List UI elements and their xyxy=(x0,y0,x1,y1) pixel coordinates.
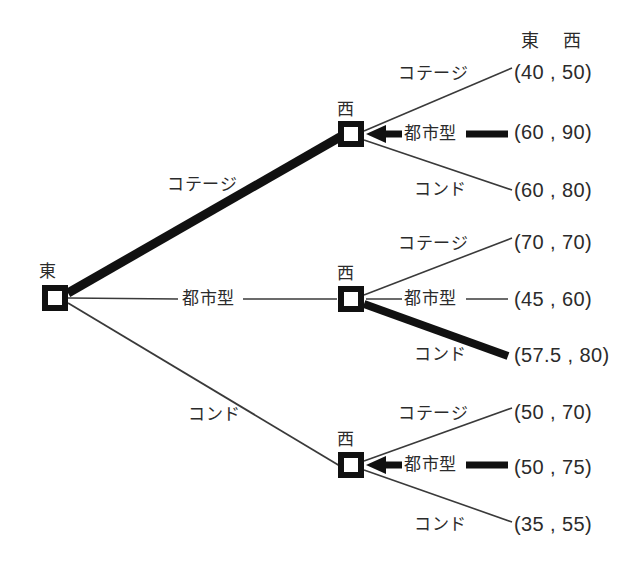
root-node-east[interactable] xyxy=(42,285,68,311)
edge-label-root-cottage: コテージ xyxy=(167,175,237,195)
node-3-label: 西 xyxy=(337,430,354,449)
payoff-n1-urban: (60 , 90) xyxy=(514,121,592,144)
edge-label-n3-condo: コンド xyxy=(414,515,467,535)
edge-label-n3-urban: 都市型 xyxy=(404,455,457,475)
payoff-n2-urban: (45 , 60) xyxy=(514,288,592,311)
decision-node-west-2[interactable] xyxy=(338,286,364,312)
edge-label-n1-urban: 都市型 xyxy=(404,124,457,144)
header-player-west: 西 xyxy=(563,31,581,52)
node-1-label: 西 xyxy=(337,100,354,119)
payoff-n1-cottage: (40 , 50) xyxy=(514,61,592,84)
payoff-n2-condo: (57.5 , 80) xyxy=(514,344,610,367)
edge-root-cottage xyxy=(68,137,340,293)
payoff-n3-urban: (50 , 75) xyxy=(514,456,592,479)
decision-node-west-1[interactable] xyxy=(338,121,364,147)
arrowhead-n1-urban xyxy=(366,125,386,143)
edge-label-root-condo: コンド xyxy=(188,405,241,425)
edge-label-n2-condo: コンド xyxy=(414,345,467,365)
node-2-label: 西 xyxy=(337,264,354,283)
edge-label-n2-cottage: コテージ xyxy=(398,234,468,254)
payoff-n3-cottage: (50 , 70) xyxy=(514,401,592,424)
header-player-east: 東 xyxy=(521,31,539,52)
root-node-label: 東 xyxy=(39,262,56,281)
edge-label-n1-condo: コンド xyxy=(414,180,467,200)
decision-node-west-3[interactable] xyxy=(338,452,364,478)
payoff-n2-cottage: (70 , 70) xyxy=(514,231,592,254)
payoff-n3-condo: (35 , 55) xyxy=(514,513,592,536)
edge-root-urban xyxy=(68,298,178,299)
payoff-n1-condo: (60 , 80) xyxy=(514,179,592,202)
edge-label-root-urban: 都市型 xyxy=(182,289,235,309)
edge-label-n2-urban: 都市型 xyxy=(404,289,457,309)
edge-label-n1-cottage: コテージ xyxy=(398,64,468,84)
edge-root-condo xyxy=(68,303,340,466)
edge-label-n3-cottage: コテージ xyxy=(398,404,468,424)
